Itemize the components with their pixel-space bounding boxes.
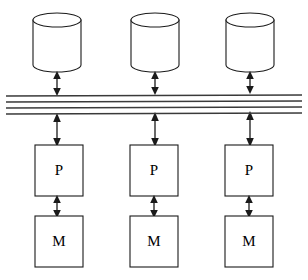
processor-box-3[interactable]: P — [225, 145, 273, 196]
system-bus[interactable] — [6, 95, 302, 114]
processor-label-2: P — [150, 162, 158, 178]
connector-processor-to-memory-2 — [150, 195, 158, 218]
connector-processor-to-memory-3 — [245, 195, 253, 218]
memory-box-1[interactable]: M — [35, 216, 83, 267]
memory-label-2: M — [147, 233, 160, 249]
bus-line-4 — [6, 113, 302, 114]
column-2: P M — [130, 13, 179, 267]
bus-line-1 — [6, 95, 302, 96]
processor-box-1[interactable]: P — [35, 145, 83, 196]
memory-label-3: M — [242, 233, 255, 249]
arrow-head-down-1 — [53, 88, 61, 96]
column-1: P M — [33, 13, 83, 267]
arrow-head-down-4 — [151, 87, 159, 95]
disk-body-3 — [226, 20, 274, 72]
bus-line-3 — [6, 107, 302, 108]
disk-top-ellipse-2 — [131, 13, 179, 27]
processor-label-1: P — [55, 162, 63, 178]
connector-bus-to-processor-2 — [151, 112, 159, 147]
connector-disk-to-bus-1 — [53, 71, 61, 96]
connector-disk-to-bus-3 — [246, 71, 254, 94]
architecture-diagram: P M — [0, 0, 308, 280]
disk-top-ellipse-3 — [226, 13, 274, 27]
memory-box-3[interactable]: M — [225, 216, 273, 267]
memory-box-2[interactable]: M — [130, 216, 178, 267]
arrow-head-up-8 — [246, 111, 254, 120]
column-3: P M — [225, 13, 274, 267]
connector-disk-to-bus-2 — [151, 71, 159, 95]
bus-line-2 — [6, 101, 302, 102]
processor-label-3: P — [245, 162, 253, 178]
disk-cylinder-2[interactable] — [131, 13, 179, 72]
connector-bus-to-processor-3 — [246, 111, 254, 147]
processor-box-2[interactable]: P — [130, 145, 178, 196]
disk-body-2 — [131, 20, 179, 72]
connector-processor-to-memory-1 — [53, 195, 61, 218]
memory-label-1: M — [52, 233, 65, 249]
disk-body-1 — [33, 20, 81, 72]
diagram-canvas: P M — [0, 0, 308, 280]
disk-cylinder-1[interactable] — [33, 13, 81, 72]
connector-bus-to-processor-1 — [53, 113, 61, 147]
arrow-head-down-7 — [246, 86, 254, 94]
disk-cylinder-3[interactable] — [226, 13, 274, 72]
disk-top-ellipse-1 — [33, 13, 81, 27]
